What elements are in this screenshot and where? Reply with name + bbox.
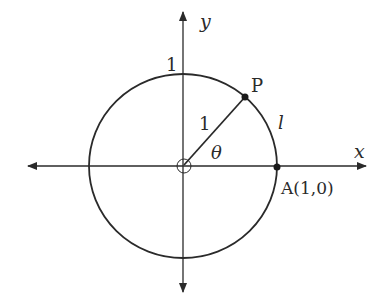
point-a-dot — [274, 164, 281, 171]
point-p-dot — [242, 94, 249, 101]
angle-label: θ — [211, 142, 222, 163]
y-axis-label: y — [199, 10, 211, 32]
point-p-label: P — [251, 75, 263, 96]
top-intercept-label: 1 — [166, 54, 177, 75]
arc-label: l — [278, 112, 284, 133]
unit-circle-diagram: y x 1 P 1 θ l A(1,0) — [0, 0, 386, 303]
radius-label: 1 — [199, 113, 210, 134]
point-a-label: A(1,0) — [280, 178, 334, 198]
x-axis-label: x — [354, 140, 365, 162]
